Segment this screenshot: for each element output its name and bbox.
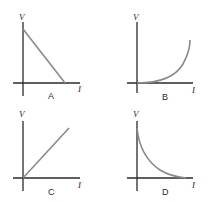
panel-b: V I B [127, 12, 196, 102]
panel-a-curve [23, 29, 65, 83]
panel-c-curve [23, 128, 69, 178]
panel-c-x-label: I [77, 180, 82, 190]
panel-b-curve [137, 40, 190, 83]
panel-d: V I D [127, 109, 196, 197]
panel-b-title: B [162, 92, 168, 102]
panel-c-title: C [48, 187, 55, 197]
panel-d-title: D [162, 187, 169, 197]
panel-d-curve [137, 128, 186, 178]
panel-b-x-label: I [191, 85, 196, 95]
panel-d-y-label: V [133, 109, 140, 119]
panel-b-y-label: V [133, 12, 140, 22]
panel-c-y-label: V [19, 109, 26, 119]
panel-a-x-label: I [77, 84, 82, 94]
panel-c: V I C [13, 109, 82, 197]
panel-a-title: A [48, 91, 54, 101]
panel-a: V I A [13, 12, 82, 101]
vi-graphs-figure: V I A V I B V I C V I D [0, 0, 209, 202]
panel-d-x-label: I [191, 180, 196, 190]
panel-a-y-label: V [19, 12, 26, 22]
